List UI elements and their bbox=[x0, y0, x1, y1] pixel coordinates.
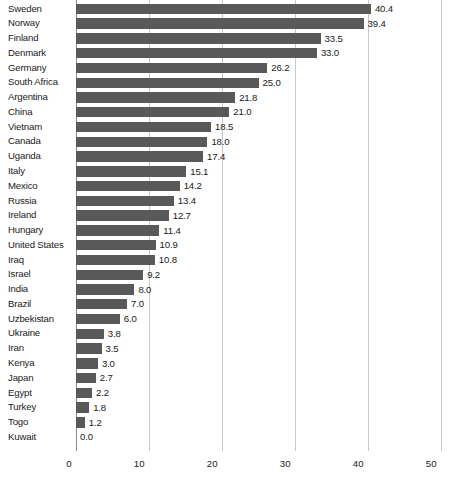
category-label: Norway bbox=[8, 16, 70, 31]
category-label: Iraq bbox=[8, 253, 70, 268]
bar-row: Argentina21.8 bbox=[0, 90, 452, 105]
bar-row: Canada18.0 bbox=[0, 134, 452, 149]
bar-container: 18.0 bbox=[76, 137, 207, 147]
bar-container: 9.2 bbox=[76, 270, 143, 280]
category-label: Egypt bbox=[8, 386, 70, 401]
x-tick-label: 50 bbox=[399, 458, 437, 470]
bar-container: 17.4 bbox=[76, 151, 203, 161]
bar bbox=[76, 78, 259, 88]
category-label: Japan bbox=[8, 371, 70, 386]
bar-value-label: 10.8 bbox=[159, 253, 177, 266]
bar-value-label: 11.4 bbox=[163, 224, 180, 237]
bar-row: Iran3.5 bbox=[0, 341, 452, 356]
bar bbox=[76, 181, 180, 191]
bar bbox=[76, 137, 207, 147]
bar-container: 14.2 bbox=[76, 181, 180, 191]
bar-container: 1.8 bbox=[76, 402, 89, 412]
bar-container: 40.4 bbox=[76, 4, 371, 14]
bar-row: Brazil7.0 bbox=[0, 297, 452, 312]
bar-value-label: 7.0 bbox=[131, 297, 144, 310]
bar-row: Finland33.5 bbox=[0, 31, 452, 46]
category-label: Mexico bbox=[8, 179, 70, 194]
bar bbox=[76, 299, 127, 309]
bar bbox=[76, 18, 364, 28]
bar-container: 21.8 bbox=[76, 92, 235, 102]
bar bbox=[76, 166, 186, 176]
bar-container: 12.7 bbox=[76, 210, 169, 220]
category-label: Hungary bbox=[8, 223, 70, 238]
bar bbox=[76, 107, 229, 117]
category-label: South Africa bbox=[8, 75, 70, 90]
bar-value-label: 9.2 bbox=[147, 268, 160, 281]
bar bbox=[76, 402, 89, 412]
bar-row: Kenya3.0 bbox=[0, 356, 452, 371]
bar-container: 21.0 bbox=[76, 107, 229, 117]
category-label: Ukraine bbox=[8, 326, 70, 341]
bar-value-label: 0.0 bbox=[80, 430, 93, 443]
bar bbox=[76, 4, 371, 14]
category-label: Denmark bbox=[8, 46, 70, 61]
bar-row: Norway39.4 bbox=[0, 16, 452, 31]
bar bbox=[76, 196, 174, 206]
bar-row: Uzbekistan6.0 bbox=[0, 312, 452, 327]
bar-container: 10.9 bbox=[76, 240, 156, 250]
category-label: Sweden bbox=[8, 2, 70, 17]
bar-value-label: 12.7 bbox=[173, 209, 191, 222]
bar-value-label: 39.4 bbox=[368, 17, 386, 30]
category-label: Argentina bbox=[8, 90, 70, 105]
bar-container: 3.0 bbox=[76, 358, 98, 368]
bar-row: United States10.9 bbox=[0, 238, 452, 253]
bar-row: Germany26.2 bbox=[0, 61, 452, 76]
category-label: Iran bbox=[8, 341, 70, 356]
bar-value-label: 18.0 bbox=[211, 135, 229, 148]
bar-value-label: 3.5 bbox=[106, 342, 119, 355]
bar-value-label: 8.0 bbox=[138, 283, 151, 296]
bar-container: 2.2 bbox=[76, 388, 92, 398]
bar bbox=[76, 122, 211, 132]
bar-row: Togo1.2 bbox=[0, 415, 452, 430]
bar-container: 10.8 bbox=[76, 255, 155, 265]
bar-value-label: 13.4 bbox=[178, 194, 196, 207]
bar-container: 33.0 bbox=[76, 48, 317, 58]
bar-row: Japan2.7 bbox=[0, 371, 452, 386]
bar-value-label: 26.2 bbox=[271, 61, 289, 74]
bar-container: 18.5 bbox=[76, 122, 211, 132]
category-label: Israel bbox=[8, 267, 70, 282]
category-label: Uganda bbox=[8, 149, 70, 164]
bar-value-label: 21.8 bbox=[239, 91, 257, 104]
bar-container: 13.4 bbox=[76, 196, 174, 206]
bar bbox=[76, 388, 92, 398]
category-label: Kenya bbox=[8, 356, 70, 371]
bar-row: Ireland12.7 bbox=[0, 208, 452, 223]
category-label: Togo bbox=[8, 415, 70, 430]
bar-container: 2.7 bbox=[76, 373, 96, 383]
bar-value-label: 3.8 bbox=[108, 327, 121, 340]
bar-row: Iraq10.8 bbox=[0, 253, 452, 268]
bar bbox=[76, 284, 134, 294]
bar-value-label: 14.2 bbox=[184, 179, 202, 192]
bar-row: Denmark33.0 bbox=[0, 46, 452, 61]
bar-row: Israel9.2 bbox=[0, 267, 452, 282]
bar-value-label: 2.7 bbox=[100, 371, 113, 384]
x-tick-label: 20 bbox=[180, 458, 218, 470]
bar-container: 26.2 bbox=[76, 63, 267, 73]
bar bbox=[76, 48, 317, 58]
bar bbox=[76, 343, 102, 353]
bar bbox=[76, 92, 235, 102]
bar bbox=[76, 373, 96, 383]
bar bbox=[76, 270, 143, 280]
plot-area: Sweden40.4Norway39.4Finland33.5Denmark33… bbox=[0, 0, 452, 452]
bar-container: 3.5 bbox=[76, 343, 102, 353]
category-label: United States bbox=[8, 238, 70, 253]
category-label: India bbox=[8, 282, 70, 297]
category-label: Canada bbox=[8, 134, 70, 149]
category-label: China bbox=[8, 105, 70, 120]
bar-container: 3.8 bbox=[76, 329, 104, 339]
category-label: Germany bbox=[8, 61, 70, 76]
bar bbox=[76, 314, 120, 324]
bar-value-label: 1.8 bbox=[93, 401, 106, 414]
bar bbox=[76, 225, 159, 235]
horizontal-bar-chart: Sweden40.4Norway39.4Finland33.5Denmark33… bbox=[0, 0, 452, 477]
bar-row: Sweden40.4 bbox=[0, 2, 452, 17]
bar-value-label: 1.2 bbox=[89, 416, 102, 429]
